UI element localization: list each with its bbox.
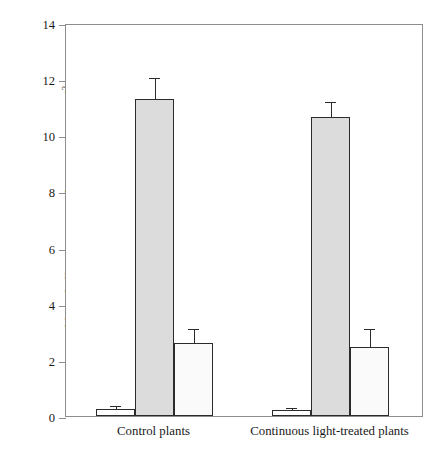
x-axis-label-group2: Continuous light-treated plants — [210, 424, 443, 439]
y-tick-mark — [59, 306, 66, 307]
bar-chlorophyll-group1 — [96, 409, 135, 416]
y-tick-label: 14 — [42, 18, 55, 33]
y-tick-mark — [59, 137, 66, 138]
bar-protein-group2 — [311, 117, 350, 416]
bar-rubisco-group2 — [350, 347, 389, 416]
error-cap-chlorophyll-group1 — [110, 406, 121, 407]
error-cap-protein-group1 — [149, 78, 160, 79]
error-bar-rubisco-group1 — [194, 330, 195, 343]
error-bar-protein-group1 — [155, 79, 156, 99]
bar-rubisco-group1 — [174, 343, 213, 416]
error-cap-rubisco-group1 — [188, 329, 199, 330]
error-cap-chlorophyll-group2 — [286, 408, 297, 409]
plot-area: 02468101214 — [65, 24, 423, 417]
y-tick-label: 12 — [42, 74, 55, 89]
y-tick-mark — [59, 25, 66, 26]
y-tick-mark — [59, 193, 66, 194]
y-tick-mark — [59, 362, 66, 363]
error-bar-chlorophyll-group2 — [292, 409, 293, 411]
error-bar-protein-group2 — [331, 103, 332, 117]
error-bar-rubisco-group2 — [370, 330, 371, 347]
y-tick-mark — [59, 81, 66, 82]
y-tick-label: 2 — [49, 354, 55, 369]
error-cap-rubisco-group2 — [364, 329, 375, 330]
y-tick-label: 4 — [49, 298, 55, 313]
bar-chart-figure: Chlorophyll, protein or Rubisco content … — [0, 0, 443, 469]
y-tick-mark — [59, 250, 66, 251]
error-bar-chlorophyll-group1 — [116, 407, 117, 409]
y-tick-label: 8 — [49, 186, 55, 201]
error-cap-protein-group2 — [325, 102, 336, 103]
bar-protein-group1 — [135, 99, 174, 416]
y-tick-mark — [59, 418, 66, 419]
bar-chlorophyll-group2 — [272, 410, 311, 416]
y-tick-label: 6 — [49, 242, 55, 257]
y-tick-label: 10 — [42, 130, 55, 145]
